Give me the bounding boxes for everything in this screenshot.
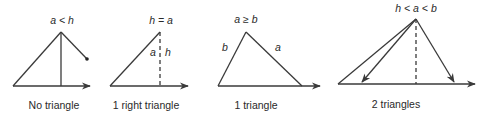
caption: 2 triangles	[372, 98, 420, 110]
side-b	[13, 32, 61, 86]
panel-two-triangles: h < a < b 2 triangles	[338, 2, 475, 110]
side-b	[110, 32, 160, 86]
panel-one-triangle: a ≥ b b a 1 triangle	[218, 13, 320, 111]
condition-label: a ≥ b	[234, 13, 257, 25]
ambiguous-case-diagram: a < h No triangle h = a a h 1 right tria…	[0, 0, 483, 125]
side-a-right	[416, 19, 454, 82]
side-a	[61, 32, 87, 59]
caption: 1 triangle	[234, 99, 277, 111]
side-label-a: a	[275, 41, 281, 53]
side-a-left	[362, 19, 416, 82]
condition-label: a < h	[50, 14, 74, 26]
caption: 1 right triangle	[113, 99, 180, 111]
panel-no-triangle: a < h No triangle	[13, 14, 90, 111]
condition-label: h = a	[149, 14, 173, 26]
side-b	[338, 19, 416, 84]
panel-one-right-triangle: h = a a h 1 right triangle	[110, 14, 188, 111]
condition-label: h < a < b	[395, 2, 437, 14]
caption: No triangle	[29, 99, 80, 111]
side-label-h: h	[165, 46, 171, 58]
side-label-a: a	[150, 46, 156, 58]
side-a	[246, 32, 302, 86]
side-label-b: b	[222, 41, 228, 53]
endpoint-dot	[85, 57, 89, 61]
